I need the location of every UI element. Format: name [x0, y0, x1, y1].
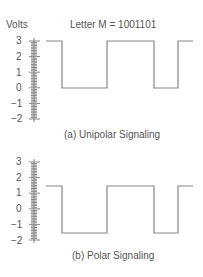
- polar-signal-line: [46, 186, 193, 233]
- unipolar-signal-line: [46, 41, 193, 88]
- signal-diagram: [0, 0, 203, 277]
